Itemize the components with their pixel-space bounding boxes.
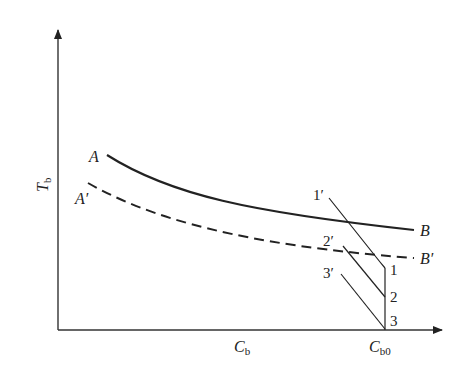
x-mark-cb0: Cb0 [369, 338, 391, 357]
label-Aprime: A′ [74, 190, 89, 207]
label-2prime: 2′ [323, 233, 334, 249]
operating-line-3 [341, 274, 385, 329]
curve-AprimeBprime [88, 183, 414, 258]
svg-text:Tb: Tb [34, 177, 53, 192]
y-axis-label: Tb [34, 177, 53, 192]
label-2: 2 [390, 289, 398, 305]
operating-line-1 [329, 198, 385, 268]
label-3: 3 [390, 313, 398, 329]
label-A: A [88, 148, 99, 165]
operating-line-2 [343, 246, 385, 297]
label-1: 1 [390, 262, 398, 278]
x-axis-label: Cb [234, 338, 251, 357]
curve-AB [107, 155, 414, 230]
label-Bprime: B′ [420, 250, 434, 267]
label-B: B [420, 222, 430, 239]
diagram-canvas: A B A′ B′ 1′ 2′ 3′ 1 2 3 Tb Cb Cb0 [0, 0, 465, 382]
label-3prime: 3′ [323, 265, 334, 281]
label-1prime: 1′ [313, 187, 324, 203]
